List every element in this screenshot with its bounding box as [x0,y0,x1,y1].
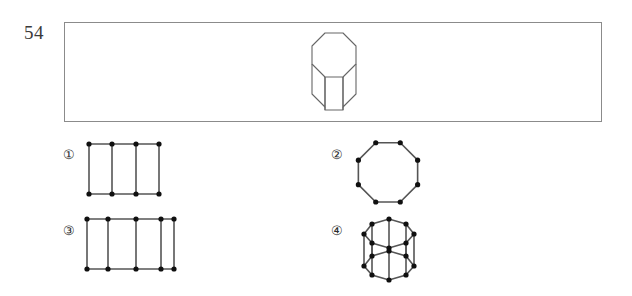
option-2[interactable]: ② [328,134,588,212]
graph-node [158,266,163,271]
graph-node [411,231,416,236]
graph-node [356,182,361,187]
graph-node [171,266,176,271]
graph-node [133,191,138,196]
graph-node [361,231,366,236]
graph-node [133,141,138,146]
prism-top-face [312,33,356,77]
octagonal-prism-graph-3d-svg [348,212,440,290]
graph-node [356,158,361,163]
graph-node [373,140,378,145]
option-3-marker: ③ [63,224,75,237]
ladder-graph-4-columns-svg [84,139,174,201]
ladder-graph-5-columns-svg [82,214,184,276]
octagonal-prism-solid-figure [304,31,364,115]
graph-node [133,216,138,221]
graph-node [386,248,391,253]
graph-node [403,240,408,245]
graph-node [361,263,366,268]
octagon-cycle-graph-figure [342,134,434,210]
graph-node [158,216,163,221]
graph-node [156,141,161,146]
graph-node [415,158,420,163]
ladder-graph-5-columns-figure [82,214,184,276]
graph-node [386,216,391,221]
graph-node [84,266,89,271]
octagonal-prism-solid-svg [304,31,364,115]
graph-node [156,191,161,196]
stem-panel [64,22,602,122]
graph-node [171,216,176,221]
graph-node [86,141,91,146]
graph-node [403,272,408,277]
option-1-marker: ① [63,148,75,161]
prism-front-face [325,77,343,110]
question-number: 54 [24,23,44,42]
graph-node [109,141,114,146]
graph-node [411,263,416,268]
edge-octagon-cycle [358,143,417,202]
graph-node [373,199,378,204]
graph-node [369,253,374,258]
ladder-graph-4-columns-figure [84,139,174,201]
graph-node [84,216,89,221]
graph-node [105,216,110,221]
graph-node [105,266,110,271]
graph-node [369,221,374,226]
option-1[interactable]: ① [60,134,320,212]
option-4[interactable]: ④ [328,212,588,292]
graph-node [386,277,391,282]
graph-node [133,266,138,271]
options-container: ① ② [0,128,632,296]
option-4-marker: ④ [331,224,343,237]
graph-node [398,199,403,204]
graph-node [86,191,91,196]
graph-node [398,140,403,145]
octagon-cycle-graph-svg [342,134,434,210]
octagonal-prism-graph-3d-figure [348,212,440,290]
graph-node [369,240,374,245]
graph-node [369,272,374,277]
graph-node [403,253,408,258]
option-3[interactable]: ③ [60,212,320,292]
graph-node [403,221,408,226]
graph-node [415,182,420,187]
graph-node [109,191,114,196]
